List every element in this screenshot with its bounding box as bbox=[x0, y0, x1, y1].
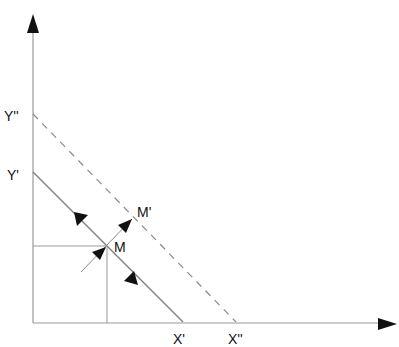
label-y-prime: Y' bbox=[7, 167, 19, 183]
y-axis-arrow-icon bbox=[27, 14, 39, 33]
label-x-double-prime: X'' bbox=[228, 331, 243, 347]
label-x-prime: X' bbox=[173, 331, 185, 347]
label-point-m-prime: M' bbox=[137, 204, 151, 220]
budget-line-original bbox=[33, 172, 183, 322]
arrow-down-right-icon bbox=[124, 271, 138, 285]
label-y-double-prime: Y'' bbox=[4, 108, 19, 124]
x-axis-arrow-icon bbox=[378, 318, 397, 330]
arrow-up-left-icon bbox=[74, 212, 88, 226]
budget-line-shifted bbox=[33, 114, 236, 322]
budget-line-diagram: Y'' Y' X' X'' M M' bbox=[0, 0, 399, 347]
label-point-m: M bbox=[114, 239, 126, 255]
